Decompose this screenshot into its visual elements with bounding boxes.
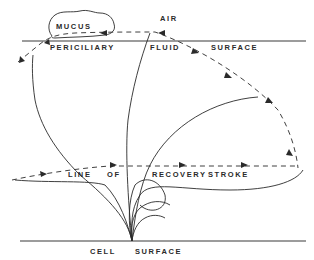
arrow-icon (19, 56, 25, 63)
label-cell: CELL (90, 247, 116, 256)
label-surface-top: SURFACE (211, 43, 258, 52)
label-recovery: RECOVERY (152, 170, 207, 179)
label-stroke: STROKE (208, 170, 249, 179)
arrow-icon (110, 162, 117, 168)
arrow-icon (158, 30, 165, 36)
arrow-icon (265, 97, 273, 103)
label-fluid: FLUID (150, 43, 180, 52)
cilium-position-1 (32, 55, 132, 241)
label-of: OF (107, 170, 121, 179)
cilium-position-4 (132, 170, 303, 241)
cilium-position-3 (132, 97, 258, 241)
cilium-position-8 (132, 215, 165, 241)
label-line: LINE (68, 170, 91, 179)
arrow-icon (241, 162, 248, 168)
cilia-beat-diagram: MUCUS AIR PERICILIARY FLUID SURFACE LINE… (0, 0, 314, 260)
label-mucus: MUCUS (56, 22, 92, 31)
arrow-icon (224, 72, 232, 78)
effective-stroke-path (18, 32, 298, 168)
label-periciliary: PERICILIARY (50, 43, 115, 52)
label-surface-bottom: SURFACE (135, 247, 182, 256)
arrow-icon (286, 149, 293, 156)
arrow-icon (179, 162, 186, 168)
cilium-position-5 (15, 180, 132, 241)
arrow-icon (40, 171, 47, 177)
label-air: AIR (160, 14, 178, 23)
